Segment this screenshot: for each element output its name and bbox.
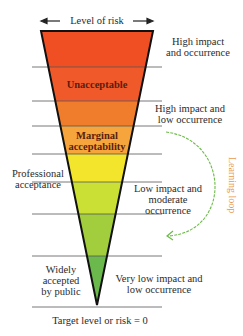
low-impact-line2: moderate — [130, 194, 206, 205]
level-of-risk-title: Level of risk — [62, 15, 132, 26]
high-impact-occurrence-line2: and occurrence — [160, 47, 236, 58]
unacceptable-label: Unacceptable — [57, 79, 137, 90]
professional-acceptance-line1: Professional — [8, 168, 68, 179]
low-impact-line3: occurrence — [130, 205, 206, 216]
marginal-label-line2: acceptability — [57, 141, 137, 152]
high-impact-occurrence-line1: High impact — [160, 36, 236, 47]
high-impact-low-line1: High impact and — [148, 103, 232, 114]
very-low-impact-line1: Very low impact and — [112, 273, 206, 284]
very-low-impact-line2: low occurrence — [112, 284, 206, 295]
widely-accepted-line1: Widely — [36, 264, 86, 275]
marginal-label-line1: Marginal — [57, 130, 137, 141]
professional-acceptance-line2: acceptance — [8, 179, 68, 190]
learning-loop-label: Learning loop — [227, 157, 238, 213]
target-level-caption: Target level or risk = 0 — [40, 315, 160, 326]
low-impact-line1: Low impact and — [130, 183, 206, 194]
widely-accepted-line3: by public — [36, 286, 86, 297]
high-impact-low-line2: low occurrence — [148, 114, 232, 125]
widely-accepted-line2: accepted — [36, 275, 86, 286]
